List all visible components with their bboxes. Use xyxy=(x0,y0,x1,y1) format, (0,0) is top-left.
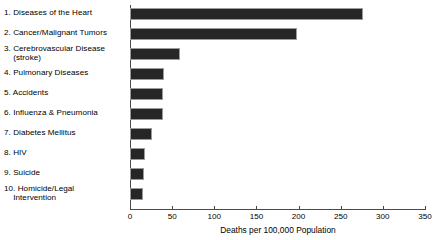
category-label: 8. HIV xyxy=(4,148,122,157)
x-axis-tick xyxy=(299,206,300,210)
category-text: Diabetes Mellitus xyxy=(13,128,75,137)
category-label: 3. Cerebrovascular Disease (stroke) xyxy=(4,44,122,63)
category-text: Suicide xyxy=(13,168,40,177)
category-number: 2. xyxy=(4,28,13,37)
category-label: 6. Influenza & Pneumonia xyxy=(4,108,122,117)
category-number: 10. xyxy=(4,184,18,193)
category-label: 2. Cancer/Malignant Tumors xyxy=(4,28,122,37)
bar xyxy=(130,68,164,80)
x-axis-tick-label: 300 xyxy=(376,212,390,222)
bar xyxy=(130,188,143,200)
x-axis-title: Deaths per 100,000 Population xyxy=(130,225,426,235)
category-label-list: 1. Diseases of the Heart2. Cancer/Malign… xyxy=(0,0,126,205)
category-number: 9. xyxy=(4,168,13,177)
x-axis-tick-label: 100 xyxy=(208,212,222,222)
category-number: 4. xyxy=(4,68,13,77)
bar xyxy=(130,48,180,60)
category-text: Pulmonary Diseases xyxy=(13,68,88,77)
category-label: 5. Accidents xyxy=(4,88,122,97)
category-text: Cerebrovascular Disease (stroke) xyxy=(4,44,105,62)
category-text: Accidents xyxy=(13,88,49,97)
category-label: 7. Diabetes Mellitus xyxy=(4,128,122,137)
x-axis-tick-label: 250 xyxy=(334,212,348,222)
bar-chart: 1. Diseases of the Heart2. Cancer/Malign… xyxy=(0,0,435,240)
bar xyxy=(130,108,163,120)
bar xyxy=(130,8,363,20)
category-text: Cancer/Malignant Tumors xyxy=(13,28,107,37)
x-axis-tick xyxy=(130,206,131,210)
category-label: 4. Pulmonary Diseases xyxy=(4,68,122,77)
x-axis-tick-label: 200 xyxy=(292,212,306,222)
x-axis-tick-label: 0 xyxy=(128,212,133,222)
bar xyxy=(130,148,145,160)
x-axis-tick xyxy=(341,206,342,210)
x-axis: Deaths per 100,000 Population 0501001502… xyxy=(130,209,426,240)
bar xyxy=(130,88,163,100)
category-label: 1. Diseases of the Heart xyxy=(4,8,122,17)
x-axis-tick xyxy=(214,206,215,210)
category-text: Diseases of the Heart xyxy=(13,8,92,17)
category-text: Influenza & Pneumonia xyxy=(13,108,98,117)
bar xyxy=(130,28,297,40)
category-number: 8. xyxy=(4,148,13,157)
bar xyxy=(130,168,144,180)
category-text: HIV xyxy=(13,148,27,157)
x-axis-tick xyxy=(172,206,173,210)
x-axis-tick xyxy=(256,206,257,210)
category-label: 9. Suicide xyxy=(4,168,122,177)
x-axis-tick-label: 350 xyxy=(418,212,432,222)
x-axis-tick-label: 150 xyxy=(250,212,264,222)
x-axis-tick xyxy=(383,206,384,210)
x-axis-tick-label: 50 xyxy=(168,212,177,222)
category-number: 6. xyxy=(4,108,13,117)
category-number: 5. xyxy=(4,88,13,97)
plot-area xyxy=(130,5,426,209)
category-number: 3. xyxy=(4,44,13,53)
bar xyxy=(130,128,152,140)
category-number: 7. xyxy=(4,128,13,137)
category-number: 1. xyxy=(4,8,13,17)
x-axis-line xyxy=(130,209,426,210)
category-label: 10. Homicide/Legal Intervention xyxy=(4,184,122,203)
x-axis-tick xyxy=(425,206,426,210)
